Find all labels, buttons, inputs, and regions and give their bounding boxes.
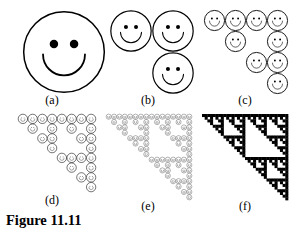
figure-11-11: (a) (b) (c) (d) (e) (f) Figure 11.11 — [0, 0, 299, 232]
figure-panel-d: (d) — [4, 112, 100, 208]
sierpinski-art-e — [106, 114, 192, 200]
sierpinski-art-c — [204, 10, 288, 94]
sierpinski-art-d — [18, 114, 96, 192]
panel-label-e: (e) — [100, 200, 196, 212]
figure-panel-b: (b) — [100, 6, 196, 101]
figure-panel-e: (e) — [100, 112, 196, 208]
panel-label-a: (a) — [4, 94, 100, 106]
figure-panel-a: (a) — [4, 6, 100, 101]
figure-panel-f: (f) — [196, 112, 294, 208]
figure-panel-c: (c) — [196, 6, 294, 101]
panel-label-b: (b) — [100, 94, 196, 106]
figure-caption: Figure 11.11 — [6, 212, 81, 229]
sierpinski-art-a — [22, 10, 106, 94]
panel-label-d: (d) — [4, 194, 100, 206]
panel-label-c: (c) — [196, 94, 294, 106]
panel-label-f: (f) — [196, 200, 294, 212]
sierpinski-art-f — [202, 114, 288, 200]
sierpinski-art-b — [110, 10, 194, 94]
